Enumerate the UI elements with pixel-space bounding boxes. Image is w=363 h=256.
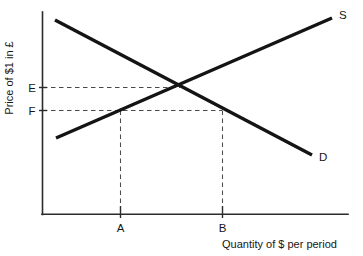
x-axis-title: Quantity of $ per period xyxy=(222,238,337,250)
x-tick-label-a: A xyxy=(117,222,125,234)
y-tick-label-f: F xyxy=(28,105,35,117)
y-axis-title: Price of $1 in £ xyxy=(3,41,15,114)
y-tick-label-e: E xyxy=(28,82,36,94)
chart-canvas: E F A B S D Price of $1 in £ Quantity of… xyxy=(0,0,363,256)
supply-curve-line xyxy=(56,18,332,138)
x-tick-label-b: B xyxy=(219,222,227,234)
supply-curve-label: S xyxy=(339,9,347,21)
supply-demand-chart: E F A B S D Price of $1 in £ Quantity of… xyxy=(0,0,363,256)
demand-curve-label: D xyxy=(319,151,327,163)
